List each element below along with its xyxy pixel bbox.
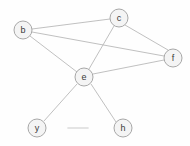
node-circle-y[interactable] [28, 119, 46, 137]
edge-b-e [30, 36, 77, 72]
edge-e-h [91, 84, 116, 122]
node-b[interactable]: b [14, 21, 32, 39]
node-circle-h[interactable] [114, 119, 132, 137]
edge-c-f [125, 25, 168, 50]
edge-b-c [32, 19, 110, 29]
node-h[interactable]: h [114, 119, 132, 137]
node-e[interactable]: e [75, 68, 93, 86]
edge-e-f [93, 60, 164, 74]
node-c[interactable]: c [110, 9, 128, 27]
node-circle-b[interactable] [14, 21, 32, 39]
edge-e-y [44, 84, 77, 121]
edge-c-e [89, 26, 114, 69]
edges-group [30, 19, 168, 122]
node-circle-c[interactable] [110, 9, 128, 27]
node-f[interactable]: f [164, 49, 182, 67]
graph-canvas: bcfeyh [0, 0, 190, 146]
node-circle-f[interactable] [164, 49, 182, 67]
graph-svg: bcfeyh [0, 0, 190, 146]
node-y[interactable]: y [28, 119, 46, 137]
node-circle-e[interactable] [75, 68, 93, 86]
